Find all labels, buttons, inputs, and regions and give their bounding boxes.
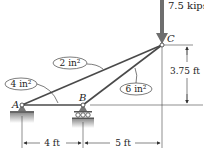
- joint-c: [160, 43, 164, 47]
- span-bc-label: 5 ft: [115, 138, 131, 148]
- member-bc: [83, 45, 162, 105]
- height-dimension-label: 3.75 ft: [170, 66, 200, 76]
- member-ac: [22, 45, 162, 105]
- node-label-c: C: [167, 33, 175, 44]
- area-label-ac: 2 in²: [53, 57, 103, 69]
- svg-text:4 in²: 4 in²: [11, 79, 32, 89]
- node-label-b: B: [78, 92, 86, 103]
- node-label-a: A: [11, 99, 19, 110]
- area-label-bc: 6 in²: [120, 68, 152, 95]
- svg-text:6 in²: 6 in²: [126, 84, 147, 94]
- members: [22, 45, 162, 105]
- truss-diagram: 7.5 kips A B C 4 in² 2 in²: [0, 0, 204, 151]
- load-label: 7.5 kips: [168, 0, 204, 11]
- span-ab-label: 4 ft: [44, 138, 60, 148]
- svg-text:2 in²: 2 in²: [60, 58, 81, 68]
